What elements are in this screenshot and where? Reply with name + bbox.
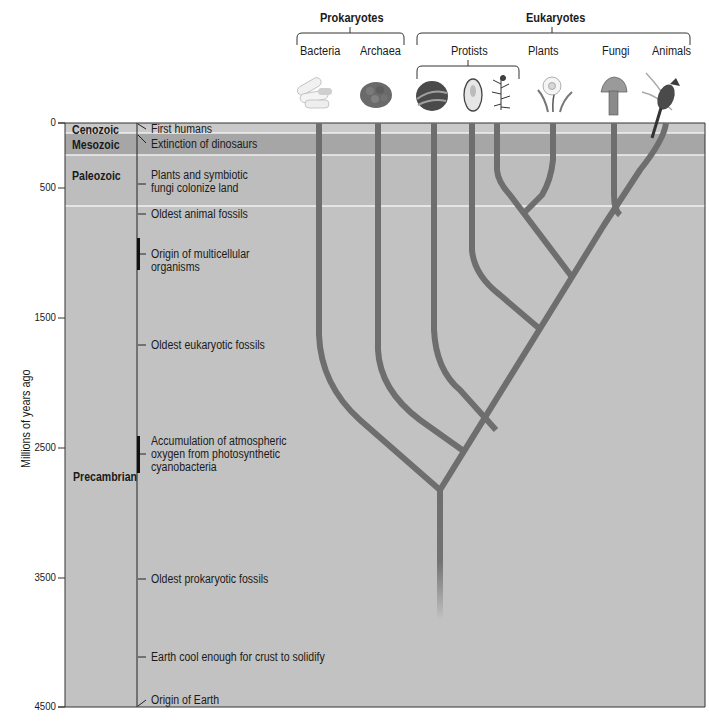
archaea-icon: [360, 82, 392, 108]
plant-daffodil-icon: [538, 77, 572, 112]
protist-alga-icon: [492, 76, 510, 111]
fungi-mushroom-icon: [601, 77, 627, 115]
event-dinosaur-extinction: Extinction of dinosaurs: [151, 138, 257, 151]
y-tick-1500: 1500: [21, 311, 56, 323]
event-land-colonization: Plants and symbiotic fungi colonize land: [151, 169, 248, 195]
y-axis-ticks: [58, 123, 65, 707]
protist-ciliate-icon: [416, 81, 448, 111]
era-mesozoic-label: Mesozoic: [72, 138, 120, 152]
era-precambrian-label: Precambrian: [73, 470, 137, 484]
era-paleozoic-label: Paleozoic: [72, 169, 121, 183]
event-oldest-prokaryotic-fossils: Oldest prokaryotic fossils: [151, 573, 268, 586]
y-tick-0: 0: [21, 116, 56, 128]
protist-paramecium-icon: [464, 79, 482, 111]
y-axis-title: Millions of years ago: [19, 370, 33, 468]
y-tick-2500: 2500: [21, 441, 56, 453]
oxygen-range-bar: [137, 436, 140, 473]
tree-diagram: [0, 0, 709, 728]
y-tick-4500: 4500: [21, 700, 56, 712]
event-crust-solidify: Earth cool enough for crust to solidify: [151, 651, 325, 664]
bacteria-icon: [296, 76, 332, 108]
root-branch: [437, 490, 443, 620]
multicellular-range-bar: [137, 238, 140, 270]
event-multicellular-origin: Origin of multicellular organisms: [151, 248, 250, 274]
event-atmospheric-oxygen: Accumulation of atmospheric oxygen from …: [151, 435, 287, 474]
event-oldest-eukaryotic-fossils: Oldest eukaryotic fossils: [151, 339, 265, 352]
event-oldest-animal-fossils: Oldest animal fossils: [151, 208, 248, 221]
event-first-humans: First humans: [151, 123, 212, 136]
event-origin-of-earth: Origin of Earth: [151, 694, 219, 707]
prokaryotes-bracket: [297, 27, 404, 45]
y-tick-3500: 3500: [21, 571, 56, 583]
y-tick-500: 500: [21, 181, 56, 193]
era-cenozoic-label: Cenozoic: [72, 123, 119, 137]
eukaryotes-bracket: [417, 27, 690, 45]
